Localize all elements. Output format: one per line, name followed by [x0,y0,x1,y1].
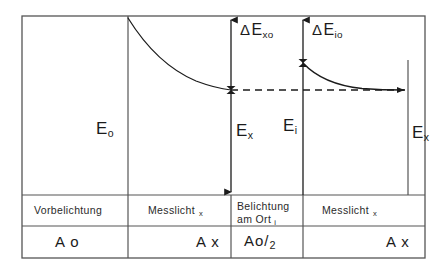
energy-label-E-i-base: E [283,116,295,135]
energy-label-E-o-base: E [96,119,108,138]
column-description-1-text: Vorbelichtung [34,204,102,216]
column-description-3-text: Belichtung am Ort [237,200,290,225]
energy-label-E-i: Ei [283,117,297,136]
delta-label-E-io: ΔEio [312,22,343,40]
delta-label-E-xo-sub: xo [263,29,274,40]
column-description-1: Vorbelichtung [34,205,102,216]
energy-label-E-x-middle-sub: x [248,129,253,141]
marker-Ei-level [299,59,308,67]
delta-symbol-io: Δ [312,21,322,38]
energy-label-E-x-right-base: E [412,123,424,142]
delta-label-E-xo-base: E [251,21,262,38]
diagram-canvas: Eo Ex Ei Ex ΔExo ΔEio Vorbelichtung Mess… [0,0,444,275]
column-amount-3-base: Ao/ [244,232,270,249]
column-amount-2: A x [196,234,220,249]
column-description-4-text: Messlicht [322,204,369,216]
column-description-4: Messlichtx [322,205,377,218]
column-amount-4-text: A x [386,233,410,250]
column-description-2: Messlichtx [148,205,203,218]
decay-curve-1 [128,18,231,90]
delta-label-E-xo: ΔExo [240,22,273,40]
energy-label-E-x-middle: Ex [236,122,253,141]
outer-frame [22,16,425,258]
column-description-2-sub: x [199,209,203,218]
column-amount-2-text: A x [196,233,220,250]
decay-curve-2 [303,63,404,90]
column-amount-3: Ao/2 [244,233,277,251]
column-description-4-sub: x [373,209,377,218]
energy-label-E-o: Eo [96,120,114,139]
delta-label-E-io-sub: io [335,29,343,40]
column-description-3: Belichtung am Orti [237,200,299,227]
energy-label-E-x-right-sub: x [424,131,429,143]
column-description-3-sub: i [274,218,276,227]
delta-label-E-io-base: E [323,21,334,38]
column-amount-3-sub: 2 [270,239,277,251]
column-amount-1-text: A o [55,233,80,250]
energy-label-E-x-right: Ex [412,124,429,143]
column-amount-4: A x [386,234,410,249]
delta-symbol-xo: Δ [240,21,250,38]
column-amount-1: A o [55,234,80,249]
energy-label-E-x-middle-base: E [236,121,248,140]
column-description-2-text: Messlicht [148,204,195,216]
energy-label-E-i-sub: i [295,124,298,136]
energy-label-E-o-sub: o [108,127,114,139]
